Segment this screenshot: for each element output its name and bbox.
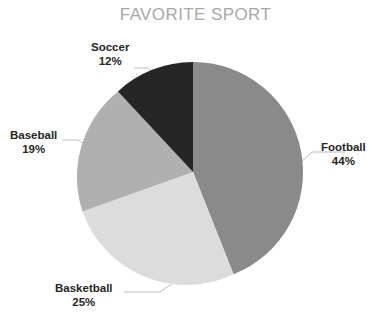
pie-label-basketball-name: Basketball [55, 281, 113, 295]
pie-label-soccer-name: Soccer [91, 40, 129, 54]
pie-label-basketball-value: 25% [55, 295, 113, 309]
pie-label-baseball-name: Baseball [10, 128, 57, 142]
pie-chart-figure: FAVORITE SPORT Football 44% Basketball 2… [0, 0, 391, 326]
pie-label-football-name: Football [321, 140, 366, 154]
pie-label-football: Football 44% [321, 140, 366, 169]
pie-label-basketball: Basketball 25% [55, 281, 113, 310]
pie-label-soccer-value: 12% [91, 54, 129, 68]
pie-label-football-value: 44% [321, 154, 366, 168]
pie-label-baseball: Baseball 19% [10, 128, 57, 157]
pie-label-soccer: Soccer 12% [91, 40, 129, 69]
pie-label-baseball-value: 19% [10, 142, 57, 156]
